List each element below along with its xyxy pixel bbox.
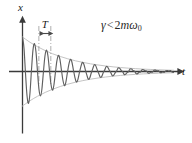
x-axis-label: t bbox=[182, 66, 185, 77]
less-than-symbol: < bbox=[106, 18, 115, 32]
omega-subscript: 0 bbox=[138, 24, 142, 33]
damped-oscillation-figure: x t T γ<2mω0 bbox=[0, 0, 192, 143]
y-axis-label: x bbox=[18, 2, 23, 13]
mass-symbol: m bbox=[121, 18, 130, 32]
damping-condition-formula: γ<2mω0 bbox=[101, 19, 142, 31]
plot-canvas bbox=[0, 0, 192, 143]
lower-envelope-curve bbox=[23, 73, 174, 106]
period-label: T bbox=[42, 19, 48, 30]
omega-symbol: ω bbox=[129, 18, 137, 32]
damped-oscillation-curve bbox=[23, 37, 174, 103]
